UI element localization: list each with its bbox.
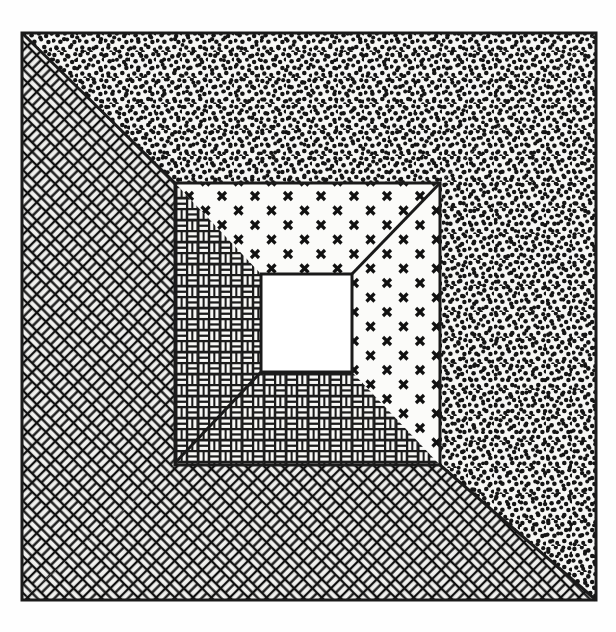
nested-frame-figure <box>0 0 616 632</box>
blank-center-square <box>261 274 352 372</box>
page-canvas: Nested square frame diagram with four mi… <box>0 0 616 632</box>
